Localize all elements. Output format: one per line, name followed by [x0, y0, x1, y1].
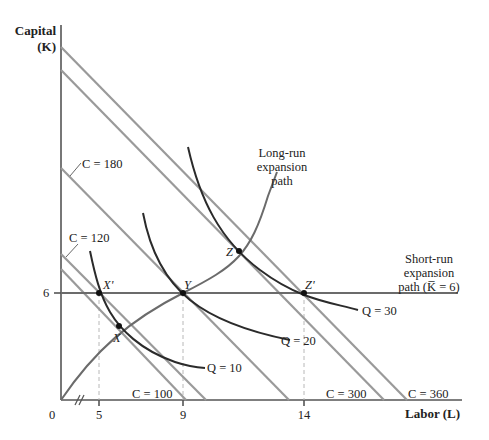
origin-label: 0 — [49, 408, 55, 422]
leader-c120 — [66, 244, 78, 257]
isoquant-label-q20: Q = 20 — [281, 334, 316, 348]
short-run-label-3: path (K̅ = 6) — [398, 280, 460, 294]
short-run-label-2: expansion — [404, 266, 455, 280]
long-run-label-1: Long-run — [258, 146, 306, 160]
isoquant-label-q10: Q = 10 — [207, 361, 242, 375]
point-x-prime — [96, 290, 102, 296]
x-tick-label-9: 9 — [180, 408, 186, 422]
point-label-x-prime: X' — [102, 278, 114, 292]
point-label-x: X — [112, 331, 122, 345]
isocost-label-c100: C = 100 — [132, 387, 172, 401]
point-z — [236, 248, 242, 254]
x-tick-label-14: 14 — [298, 408, 311, 422]
y-axis-symbol: (K) — [37, 39, 56, 54]
point-x — [116, 323, 122, 329]
leader-c180 — [70, 163, 81, 176]
axes — [54, 25, 462, 406]
isocost-label-c360: C = 360 — [408, 387, 448, 401]
isocost-label-c180: C = 180 — [82, 157, 122, 171]
short-run-label-1: Short-run — [405, 252, 454, 266]
y-axis-title: Capital — [15, 23, 57, 38]
x-tick-label-5: 5 — [96, 408, 102, 422]
isocost-c300 — [61, 70, 384, 400]
x-axis-title: Labor (L) — [405, 406, 460, 421]
expansion-path-diagram: Capital (K) Labor (L) 0 5 9 14 6 C = 180… — [0, 0, 489, 440]
isocost-label-c120: C = 120 — [69, 231, 109, 245]
isoquant-q10 — [90, 251, 205, 368]
long-run-label-3: path — [271, 174, 293, 188]
isocost-label-c300: C = 300 — [326, 387, 366, 401]
isocost-c100 — [61, 269, 186, 400]
point-label-z: Z — [226, 245, 234, 259]
isocost-c120 — [61, 254, 206, 400]
long-run-label-2: expansion — [257, 160, 308, 174]
isocost-lines — [61, 47, 407, 400]
point-label-z-prime: Z' — [305, 278, 315, 292]
point-label-y: Y — [184, 278, 193, 292]
y-tick-label-6: 6 — [43, 286, 49, 300]
isoquant-label-q30: Q = 30 — [362, 304, 397, 318]
isocost-c360 — [61, 47, 407, 400]
